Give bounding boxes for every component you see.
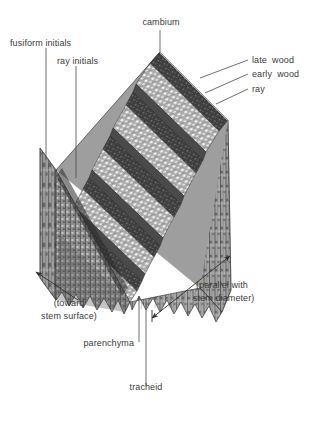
label-parenchyma: parenchyma <box>56 338 134 349</box>
label-tracheid: tracheid <box>108 382 184 393</box>
leader-early-wood <box>205 74 248 93</box>
label-cambium: cambium <box>128 17 194 28</box>
label-parallel-stem-diameter-line1: (parallel with <box>196 280 248 291</box>
label-parallel-stem-diameter-line2: stem diameter) <box>193 293 254 304</box>
leader-ray <box>216 89 248 104</box>
label-toward-stem-surface-line1: (toward <box>30 298 108 309</box>
label-toward-stem-surface-line2: stem surface) <box>20 311 118 322</box>
label-ray: ray <box>252 84 265 95</box>
label-ray-initials: ray initials <box>57 56 98 67</box>
radial-left-face <box>40 148 56 300</box>
label-fusiform-initials: fusiform initials <box>10 38 71 49</box>
label-early-wood: early wood <box>252 69 299 80</box>
label-late-wood: late wood <box>252 55 294 66</box>
leader-late-wood <box>200 60 248 78</box>
